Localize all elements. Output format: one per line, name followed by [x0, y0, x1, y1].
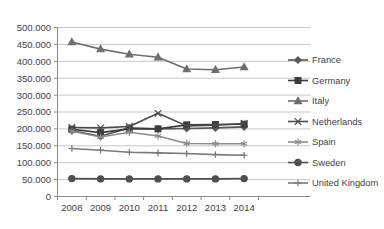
y-axis-tick-label: 200.000: [17, 123, 51, 134]
y-axis-tick-labels: 050.000100.000150.000200.000250.000300.0…: [17, 22, 51, 202]
legend-item-label: Sweden: [312, 158, 346, 168]
data-point-marker: [295, 159, 301, 165]
data-point-marker: [126, 176, 132, 182]
series-italy: [68, 38, 247, 72]
y-axis-tick-label: 300.000: [17, 90, 51, 101]
x-axis-tick-label: 2009: [90, 202, 111, 213]
x-axis-tick-label: 2013: [205, 202, 226, 213]
data-point-marker: [97, 176, 103, 182]
x-axis-tick-label: 2010: [119, 202, 140, 213]
legend-item-label: United Kingdom: [312, 178, 378, 188]
legend-item-netherlands[interactable]: Netherlands: [288, 117, 362, 127]
line-chart: 050.000100.000150.000200.000250.000300.0…: [0, 0, 384, 229]
x-axis-tick-label: 2011: [148, 202, 168, 213]
legend: FranceGermanyItalyNetherlandsSpainSweden…: [288, 55, 378, 188]
y-axis-tick-label: 500.000: [17, 22, 51, 33]
legend-item-sweden[interactable]: Sweden: [288, 158, 346, 168]
legend-item-france[interactable]: France: [288, 55, 341, 65]
data-point-marker: [295, 78, 301, 84]
x-axis-tick-label: 2014: [234, 202, 255, 213]
data-point-marker: [68, 38, 75, 44]
legend-item-italy[interactable]: Italy: [288, 96, 329, 106]
chart-canvas: 050.000100.000150.000200.000250.000300.0…: [0, 0, 384, 229]
gridlines: [58, 28, 311, 180]
y-axis-tick-label: 250.000: [17, 106, 51, 117]
axis-lines: [54, 27, 311, 200]
data-point-marker: [184, 176, 190, 182]
legend-item-label: Italy: [312, 96, 329, 106]
data-series: [68, 38, 247, 182]
x-axis-tick-label: 2012: [176, 202, 197, 213]
data-point-marker: [155, 126, 161, 132]
x-axis-tick-labels: 2008200920102011201220132014: [61, 202, 254, 213]
data-point-marker: [212, 176, 218, 182]
y-axis-tick-label: 150.000: [17, 140, 51, 151]
series-united-kingdom: [69, 145, 248, 158]
data-point-marker: [69, 175, 75, 181]
data-point-marker: [295, 57, 301, 63]
y-axis-tick-label: 50.000: [22, 174, 51, 185]
data-point-marker: [155, 176, 161, 182]
y-axis-tick-label: 100.000: [17, 157, 51, 168]
legend-item-germany[interactable]: Germany: [288, 76, 351, 86]
legend-item-label: France: [312, 55, 341, 65]
y-axis-tick-label: 450.000: [17, 39, 51, 50]
y-axis-tick-label: 400.000: [17, 56, 51, 67]
y-axis-tick-label: 350.000: [17, 73, 51, 84]
legend-item-label: Netherlands: [312, 117, 362, 127]
legend-item-label: Germany: [312, 76, 351, 86]
y-axis-tick-label: 0: [46, 191, 51, 202]
legend-item-label: Spain: [312, 137, 336, 147]
series-sweden: [69, 175, 247, 182]
data-point-marker: [241, 175, 247, 181]
x-axis-tick-label: 2008: [61, 202, 82, 213]
